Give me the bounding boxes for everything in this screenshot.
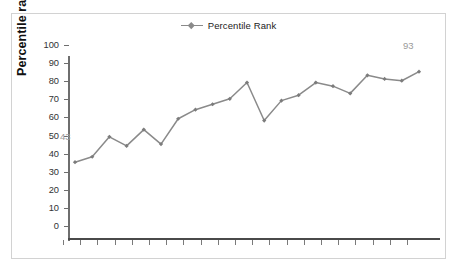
- y-axis-tick-label: 20: [29, 185, 59, 195]
- data-point-marker: [159, 142, 163, 146]
- y-axis-tick-mark: [64, 45, 69, 46]
- y-axis-tick-label: 30: [29, 167, 59, 177]
- x-axis-tick-mark: [166, 240, 167, 245]
- data-point-marker: [90, 155, 94, 159]
- data-point-marker: [73, 160, 77, 164]
- y-axis-tick-label: 90: [29, 58, 59, 68]
- y-axis-tick-mark: [64, 226, 69, 227]
- y-axis-tick-label: 50: [29, 131, 59, 141]
- x-axis-tick-mark: [97, 240, 98, 245]
- y-axis-tick-mark: [64, 172, 69, 173]
- diamond-marker-icon: [181, 21, 203, 30]
- legend-entry-label: Percentile Rank: [208, 20, 277, 31]
- y-axis-tick-mark: [64, 190, 69, 191]
- data-point-marker: [107, 135, 111, 139]
- data-point-marker: [228, 97, 232, 101]
- x-axis-line: [68, 238, 440, 240]
- data-point-marker: [417, 70, 421, 74]
- x-axis-tick-mark: [183, 240, 184, 245]
- data-point-marker: [348, 91, 352, 95]
- data-point-marker: [125, 144, 129, 148]
- x-axis-tick-mark: [338, 240, 339, 245]
- y-axis-tick-mark: [64, 81, 69, 82]
- x-axis-tick-mark: [355, 240, 356, 245]
- y-axis-tick-mark: [64, 154, 69, 155]
- y-axis-tick-mark: [64, 208, 69, 209]
- x-axis-tick-mark: [287, 240, 288, 245]
- x-axis-tick-mark: [235, 240, 236, 245]
- x-axis-tick-mark: [269, 240, 270, 245]
- data-point-marker: [211, 102, 215, 106]
- x-axis-tick-mark: [373, 240, 374, 245]
- chart-legend: Percentile Rank: [12, 20, 445, 31]
- data-point-marker: [365, 73, 369, 77]
- data-point-marker: [331, 84, 335, 88]
- y-axis-tick-mark: [64, 117, 69, 118]
- y-axis-tick-label: 80: [29, 76, 59, 86]
- x-axis-tick-mark: [252, 240, 253, 245]
- data-point-marker: [142, 127, 146, 131]
- data-point-marker: [279, 99, 283, 103]
- y-axis-tick-mark: [64, 99, 69, 100]
- data-point-marker: [262, 118, 266, 122]
- x-axis-tick-mark: [407, 240, 408, 245]
- x-axis-tick-mark: [218, 240, 219, 245]
- x-axis-tick-mark: [115, 240, 116, 245]
- x-axis-tick-mark: [201, 240, 202, 245]
- x-axis-tick-mark: [149, 240, 150, 245]
- y-axis-tick-label: 60: [29, 112, 59, 122]
- y-axis-line: [68, 56, 70, 241]
- y-axis-title: Percentile rank: [15, 0, 29, 76]
- y-axis-tick-label: 100: [29, 40, 59, 50]
- data-point-marker: [176, 117, 180, 121]
- x-axis-tick-mark: [80, 240, 81, 245]
- chart-container: Percentile Rank Percentile rank 01020304…: [11, 13, 446, 259]
- data-point-marker: [297, 93, 301, 97]
- y-axis-tick-label: 70: [29, 94, 59, 104]
- x-axis-tick-mark: [321, 240, 322, 245]
- data-label-first: 43: [60, 131, 71, 142]
- series-plot: [12, 14, 457, 274]
- data-point-marker: [314, 80, 318, 84]
- x-axis-tick-mark: [390, 240, 391, 245]
- data-point-marker: [245, 80, 249, 84]
- y-axis-tick-label: 10: [29, 203, 59, 213]
- y-axis-tick-label: 40: [29, 149, 59, 159]
- y-axis-tick-mark: [64, 63, 69, 64]
- data-point-marker: [383, 77, 387, 81]
- x-axis-tick-mark: [132, 240, 133, 245]
- x-axis-tick-mark: [63, 240, 64, 245]
- x-axis-tick-mark: [304, 240, 305, 245]
- data-point-marker: [400, 79, 404, 83]
- y-axis-tick-label: 0: [29, 221, 59, 231]
- series-line-percentile-rank: [75, 72, 419, 163]
- series-markers: [73, 70, 421, 165]
- data-point-marker: [193, 108, 197, 112]
- data-label-last: 93: [403, 40, 414, 51]
